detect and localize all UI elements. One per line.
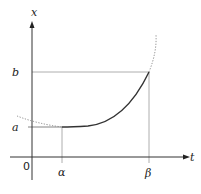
alpha-label: α	[58, 166, 66, 179]
curve-right-dotted-extension	[149, 35, 156, 72]
origin-label: 0	[23, 160, 30, 173]
a-label: a	[12, 121, 19, 134]
x-axis-label: x	[31, 6, 38, 19]
x-axis-arrow-icon	[30, 21, 35, 28]
t-axis-arrow-icon	[183, 155, 190, 160]
b-label: b	[12, 66, 19, 79]
beta-label: β	[144, 167, 151, 180]
curve-solid-segment	[62, 72, 149, 127]
curve-left-dotted-extension	[17, 116, 62, 127]
curve-diagram: x t 0 b a α β	[0, 0, 201, 194]
t-axis-label: t	[190, 151, 195, 164]
